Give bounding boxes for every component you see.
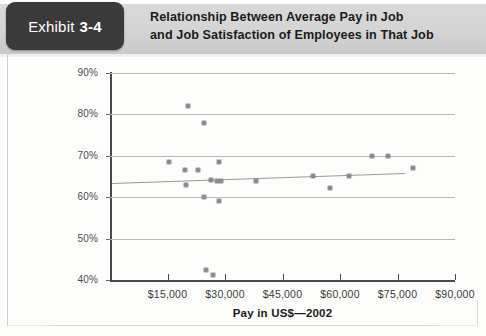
exhibit-number: 3-4 (80, 18, 102, 35)
y-tick-label: 70% (58, 150, 98, 161)
x-tick-mark (455, 274, 456, 280)
exhibit-title-line-1: Relationship Between Average Pay in Job (150, 8, 470, 26)
y-tick-label: 90% (58, 67, 98, 78)
exhibit-tab: Exhibit 3-4 (6, 2, 124, 50)
page-frame-left (7, 50, 8, 326)
y-tick-label: 40% (58, 274, 98, 285)
y-tick-label: 50% (58, 233, 98, 244)
exhibit-figure: Exhibit 3-4 Relationship Between Average… (0, 0, 486, 336)
y-tick-mark (106, 280, 110, 281)
x-axis-line (110, 280, 455, 282)
y-tick-label: 80% (58, 108, 98, 119)
exhibit-title: Relationship Between Average Pay in Job … (150, 8, 470, 45)
y-tick-label: 60% (58, 191, 98, 202)
x-tick-label: $90,000 (420, 288, 486, 300)
x-axis-title: Pay in US$—2002 (110, 307, 455, 319)
exhibit-label: Exhibit (28, 18, 74, 35)
page-frame-right (477, 300, 478, 326)
page-frame-bottom (7, 325, 477, 326)
exhibit-title-line-2: and Job Satisfaction of Employees in Tha… (150, 26, 470, 44)
